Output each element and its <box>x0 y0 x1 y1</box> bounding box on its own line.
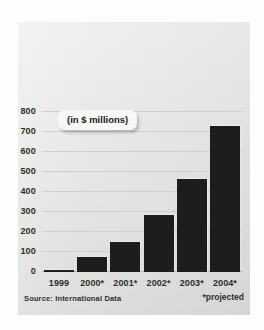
bar-slot-2001: 2001* <box>110 112 140 272</box>
x-tick-label-2000: 2000* <box>80 278 104 288</box>
bar-2004[interactable] <box>210 126 240 272</box>
bar-1999[interactable] <box>44 270 74 272</box>
projected-footnote: *projected <box>202 292 244 302</box>
bar-slot-1999: 1999 <box>44 112 74 272</box>
y-tick-label-0: 0 <box>31 266 36 276</box>
bar-2003[interactable] <box>177 179 207 272</box>
y-tick-label-500: 500 <box>20 166 36 176</box>
x-tick-label-2003: 2003* <box>180 278 204 288</box>
bar-2001[interactable] <box>110 242 140 272</box>
y-tick-label-700: 700 <box>20 126 36 136</box>
bar-series: 1999 2000* 2001* 2002* 2003* 2004* <box>42 112 242 272</box>
bar-slot-2003: 2003* <box>177 112 207 272</box>
units-callout: (in $ millions) <box>58 110 137 130</box>
y-tick-label-800: 800 <box>20 106 36 116</box>
plot-area: 800 700 600 500 400 300 200 100 0 199 <box>42 112 242 272</box>
bar-2000[interactable] <box>77 257 107 272</box>
y-tick-label-300: 300 <box>20 206 36 216</box>
y-tick-label-400: 400 <box>20 186 36 196</box>
bar-slot-2000: 2000* <box>77 112 107 272</box>
bar-slot-2004: 2004* <box>210 112 240 272</box>
chart-figure: 800 700 600 500 400 300 200 100 0 199 <box>0 0 264 330</box>
y-tick-label-100: 100 <box>20 246 36 256</box>
y-tick-label-600: 600 <box>20 146 36 156</box>
x-tick-label-2002: 2002* <box>147 278 171 288</box>
bar-2002[interactable] <box>144 215 174 272</box>
bar-slot-2002: 2002* <box>144 112 174 272</box>
x-tick-label-2004: 2004* <box>213 278 237 288</box>
x-tick-label-2001: 2001* <box>113 278 137 288</box>
y-tick-label-200: 200 <box>20 226 36 236</box>
x-tick-label-1999: 1999 <box>49 278 69 288</box>
source-note: Source: International Data <box>24 294 121 303</box>
